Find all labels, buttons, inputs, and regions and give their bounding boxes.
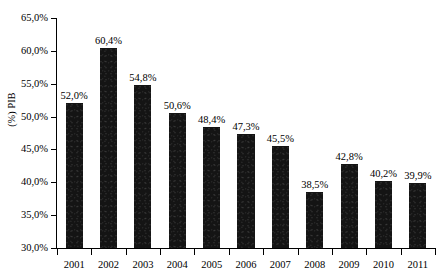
- x-axis-tick: [435, 249, 436, 255]
- bar-value-label: 39,9%: [404, 170, 431, 181]
- x-axis-tick: [194, 249, 195, 255]
- plot-area: [57, 18, 435, 248]
- y-axis-tick-label: 65,0%: [0, 13, 48, 23]
- bar: [203, 127, 220, 248]
- x-axis-tick: [126, 249, 127, 255]
- x-axis-tick: [401, 249, 402, 255]
- bar: [100, 48, 117, 248]
- bar: [409, 183, 426, 248]
- x-axis-tick: [332, 249, 333, 255]
- bar-chart: (%) PIB 30,0%35,0%40,0%45,0%50,0%55,0%60…: [0, 0, 443, 279]
- bar-value-label: 45,5%: [267, 133, 294, 144]
- bar-value-label: 42,8%: [336, 151, 363, 162]
- y-axis-tick-label: 45,0%: [0, 144, 48, 154]
- x-axis-tick-label: 2001: [64, 259, 85, 270]
- y-axis-tick-label: 30,0%: [0, 243, 48, 253]
- y-axis-tick-label: 60,0%: [0, 46, 48, 56]
- bar: [306, 192, 323, 248]
- bar: [237, 134, 254, 248]
- bar: [375, 181, 392, 248]
- bar-value-label: 50,6%: [164, 100, 191, 111]
- x-axis-tick-label: 2003: [132, 259, 153, 270]
- x-axis-tick-label: 2009: [339, 259, 360, 270]
- bar: [134, 85, 151, 248]
- x-axis-tick: [366, 249, 367, 255]
- bar: [66, 103, 83, 248]
- x-axis-tick: [229, 249, 230, 255]
- y-axis-tick-label: 50,0%: [0, 112, 48, 122]
- bar-value-label: 40,2%: [370, 168, 397, 179]
- bar-value-label: 48,4%: [198, 114, 225, 125]
- bar-value-label: 60,4%: [95, 35, 122, 46]
- bar-value-label: 52,0%: [61, 90, 88, 101]
- bar-value-label: 38,5%: [301, 179, 328, 190]
- x-axis-tick: [263, 249, 264, 255]
- x-axis-tick: [57, 249, 58, 255]
- y-axis-tick-label: 40,0%: [0, 177, 48, 187]
- bar: [169, 113, 186, 248]
- x-axis-tick-label: 2011: [408, 259, 429, 270]
- x-axis-tick: [160, 249, 161, 255]
- x-axis-tick-label: 2010: [373, 259, 394, 270]
- bar: [272, 146, 289, 248]
- x-axis-tick-label: 2002: [98, 259, 119, 270]
- x-axis-line: [56, 248, 436, 249]
- x-axis-tick: [298, 249, 299, 255]
- bar-value-label: 47,3%: [232, 121, 259, 132]
- x-axis-tick-label: 2004: [167, 259, 188, 270]
- x-axis-tick-label: 2005: [201, 259, 222, 270]
- bar-value-label: 54,8%: [129, 72, 156, 83]
- y-axis-tick-label: 55,0%: [0, 79, 48, 89]
- bar: [341, 164, 358, 248]
- y-axis-tick-label: 35,0%: [0, 210, 48, 220]
- x-axis-tick: [91, 249, 92, 255]
- x-axis-tick-label: 2007: [270, 259, 291, 270]
- x-axis-tick-label: 2008: [304, 259, 325, 270]
- x-axis-tick-label: 2006: [236, 259, 257, 270]
